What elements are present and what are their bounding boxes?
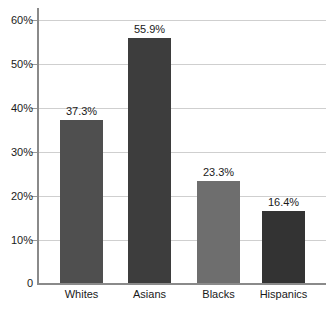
x-tick-label-blacks: Blacks xyxy=(183,288,254,300)
bar-whites[interactable] xyxy=(60,120,103,283)
bar-value-asians: 55.9% xyxy=(119,24,180,35)
x-tick-label-asians: Asians xyxy=(114,288,185,300)
y-tick-label-40: 40% xyxy=(0,103,33,114)
bar-value-whites: 37.3% xyxy=(51,106,112,117)
bar-value-blacks: 23.3% xyxy=(188,167,249,178)
bar-blacks[interactable] xyxy=(197,181,240,283)
y-tick-label-30: 30% xyxy=(0,147,33,158)
x-tick-label-whites: Whites xyxy=(46,288,117,300)
y-tick-label-50: 50% xyxy=(0,59,33,70)
x-axis-line xyxy=(37,283,326,285)
y-tick-label-0: 0 xyxy=(0,278,33,289)
gridline-50 xyxy=(37,64,326,65)
bar-value-hispanics: 16.4% xyxy=(253,197,314,208)
gridline-60 xyxy=(37,20,326,21)
bar-hispanics[interactable] xyxy=(262,211,305,283)
x-tick-label-hispanics: Hispanics xyxy=(248,288,319,300)
y-tick-label-10: 10% xyxy=(0,235,33,246)
bar-asians[interactable] xyxy=(128,38,171,283)
y-axis-line xyxy=(37,8,39,284)
y-tick-label-20: 20% xyxy=(0,191,33,202)
y-tick-label-60: 60% xyxy=(0,15,33,26)
bar-chart: 60% 50% 40% 30% 20% 10% 0 37.3% 55.9% 23… xyxy=(0,0,331,309)
